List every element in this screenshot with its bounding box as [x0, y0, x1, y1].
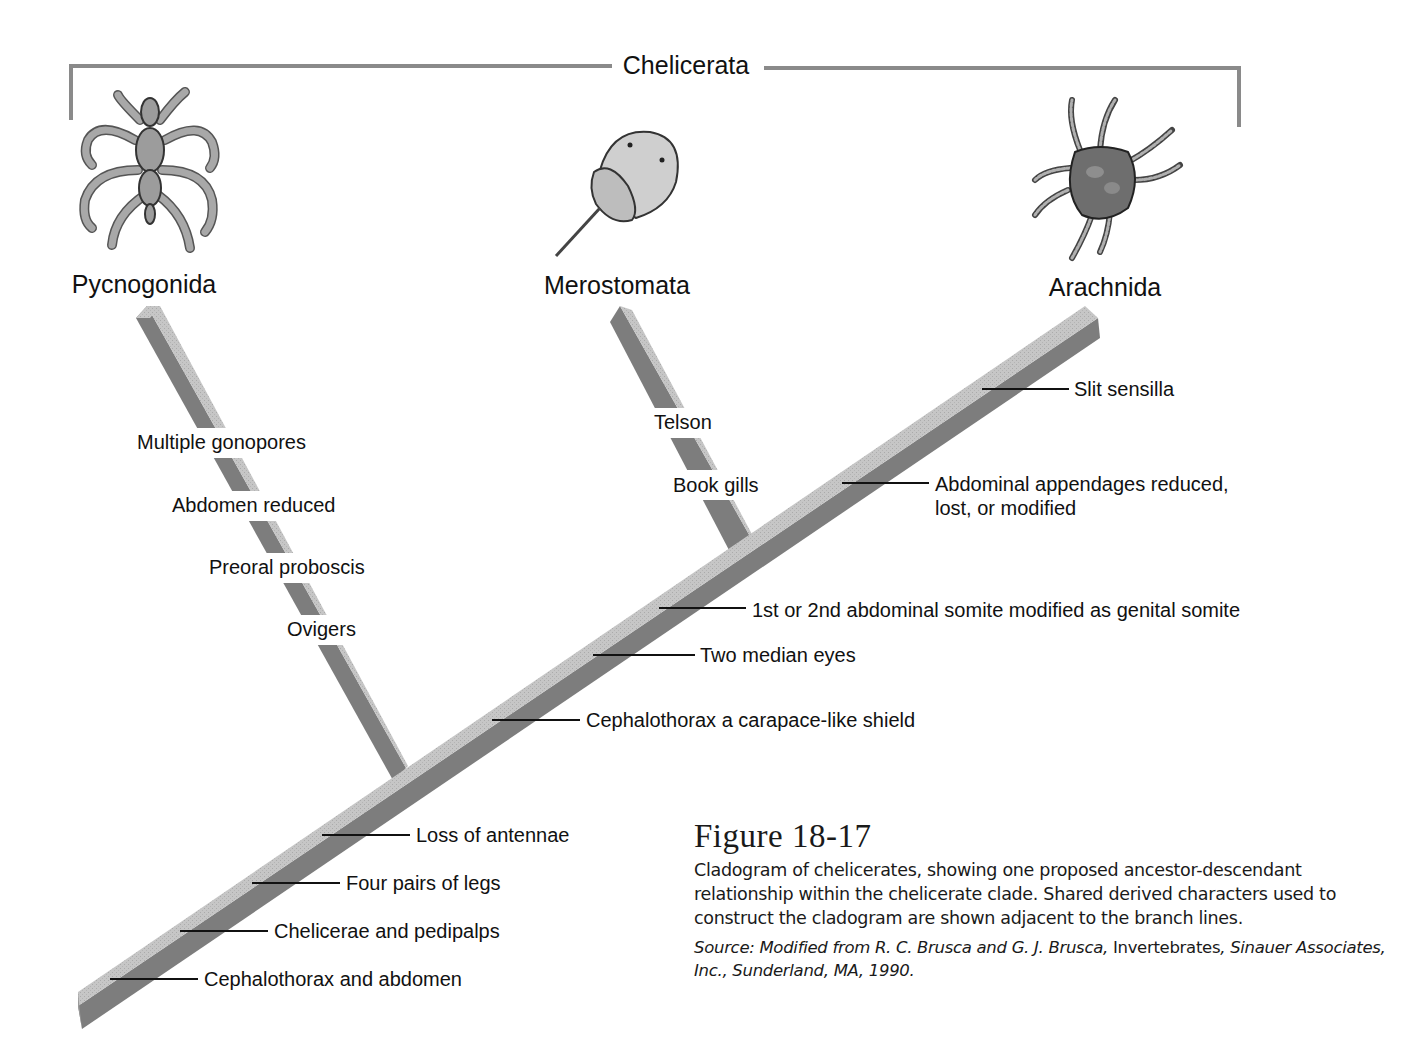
- character-label: Cephalothorax a carapace-like shield: [586, 709, 915, 731]
- character-label: Cephalothorax and abdomen: [204, 968, 462, 990]
- sea-spider-icon: [84, 92, 214, 248]
- character-label: Telson: [654, 411, 712, 433]
- horseshoe-crab-icon: [556, 132, 678, 256]
- character-label: Slit sensilla: [1074, 378, 1175, 400]
- character-label: Four pairs of legs: [346, 872, 501, 894]
- character-label: Ovigers: [287, 618, 356, 640]
- character-label: 1st or 2nd abdominal somite modified as …: [752, 599, 1240, 621]
- character-label: Abdomen reduced: [172, 494, 335, 516]
- character-label: Loss of antennae: [416, 824, 569, 846]
- branch-pycnogonida: [136, 306, 408, 782]
- character-label: Book gills: [673, 474, 759, 496]
- taxon-label-pycnogonida: Pycnogonida: [72, 270, 217, 298]
- character-label: Abdominal appendages reduced,: [935, 473, 1229, 495]
- character-label: Preoral proboscis: [209, 556, 365, 578]
- character-label: Multiple gonopores: [137, 431, 306, 453]
- source-prefix: Source: Modified from R. C. Brusca and G…: [694, 938, 1113, 957]
- character-label: lost, or modified: [935, 497, 1076, 519]
- figure-caption: Figure 18-17 Cladogram of chelicerates, …: [694, 816, 1394, 982]
- taxon-label-merostomata: Merostomata: [544, 271, 690, 299]
- figure-source: Source: Modified from R. C. Brusca and G…: [694, 936, 1394, 982]
- clade-label: Chelicerata: [623, 51, 750, 79]
- cladogram-figure: Chelicerata Multiple gonopores Abdomen r…: [0, 0, 1422, 1041]
- mite-icon: [1035, 100, 1180, 258]
- taxon-label-arachnida: Arachnida: [1049, 273, 1162, 301]
- character-label: Two median eyes: [700, 644, 856, 666]
- figure-title: Figure 18-17: [694, 816, 1394, 856]
- figure-caption-text: Cladogram of chelicerates, showing one p…: [694, 858, 1394, 930]
- character-label: Chelicerae and pedipalps: [274, 920, 500, 942]
- source-book: Invertebrates: [1113, 938, 1220, 957]
